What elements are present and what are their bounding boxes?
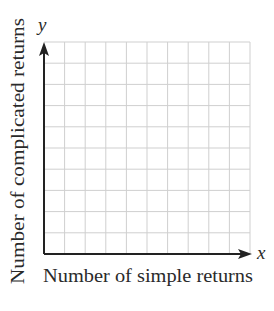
x-axis-label: Number of simple returns (43, 265, 253, 286)
coordinate-grid-chart: x y Number of simple returns Number of c… (0, 0, 274, 311)
x-axis-variable: x (256, 242, 266, 263)
y-axis-variable: y (36, 14, 47, 35)
grid-lines (44, 42, 250, 254)
y-axis-label: Number of complicated returns (7, 18, 28, 284)
